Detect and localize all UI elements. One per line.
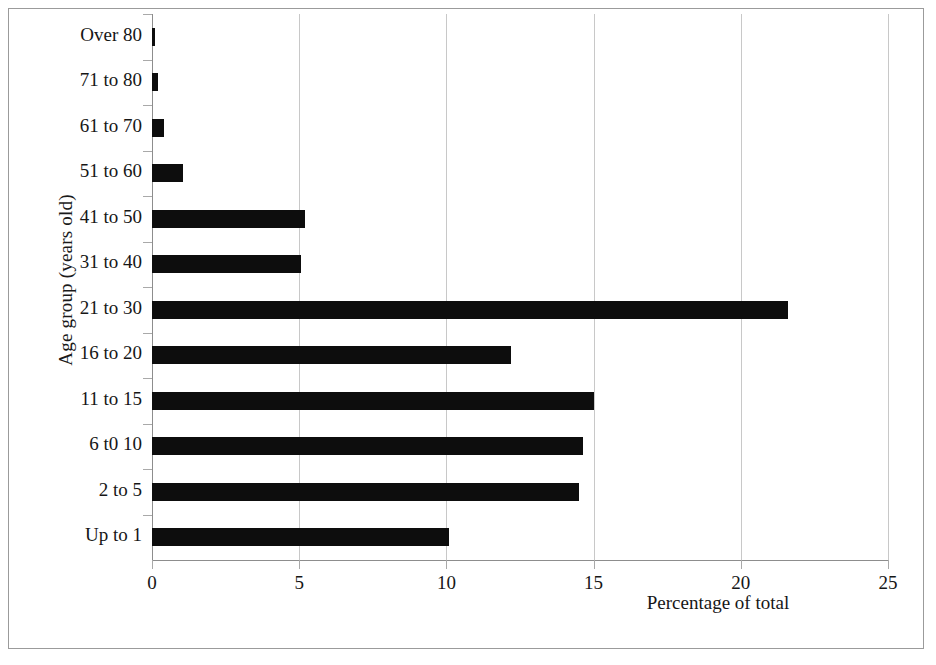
bar (152, 528, 449, 546)
y-axis-tick (143, 287, 152, 288)
y-axis-tick (143, 105, 152, 106)
bar (152, 437, 583, 455)
y-axis-tick-label: 11 to 15 (2, 388, 142, 410)
y-axis-tick-label: 2 to 5 (2, 479, 142, 501)
y-axis-tick (143, 196, 152, 197)
y-axis-tick (143, 242, 152, 243)
y-axis-tick-label: Over 80 (2, 24, 142, 46)
x-axis-tick (446, 560, 447, 569)
y-axis-tick (143, 14, 152, 15)
bar (152, 346, 511, 364)
y-axis-tick (143, 151, 152, 152)
y-axis-tick (143, 515, 152, 516)
x-axis-tick-label: 10 (416, 572, 476, 594)
bar (152, 119, 164, 137)
x-gridline (594, 14, 595, 560)
x-axis-tick (888, 560, 889, 569)
x-axis-tick-label: 5 (269, 572, 329, 594)
bar (152, 392, 594, 410)
bar (152, 28, 155, 46)
bar (152, 210, 305, 228)
x-axis-tick (152, 560, 153, 569)
x-gridline (299, 14, 300, 560)
y-axis-tick-label: 41 to 50 (2, 206, 142, 228)
bar (152, 255, 301, 273)
bar (152, 483, 579, 501)
y-axis-tick (143, 60, 152, 61)
x-axis-title: Percentage of total (548, 592, 888, 614)
y-axis-tick-label: 21 to 30 (2, 297, 142, 319)
x-gridline (888, 14, 889, 560)
y-axis-tick-label: Up to 1 (2, 524, 142, 546)
x-axis-tick-label: 25 (858, 572, 918, 594)
x-axis-tick-label: 15 (564, 572, 624, 594)
bar (152, 73, 158, 91)
y-axis-tick (143, 469, 152, 470)
y-axis-tick (143, 378, 152, 379)
plot-area (152, 14, 888, 560)
x-axis-tick-label: 0 (122, 572, 182, 594)
y-axis-tick-label: 16 to 20 (2, 342, 142, 364)
y-axis-tick-label: 51 to 60 (2, 160, 142, 182)
chart-figure: Age group (years old) Up to 12 to 56 t0 … (0, 0, 936, 665)
x-axis-tick (299, 560, 300, 569)
y-axis-tick-label: 71 to 80 (2, 69, 142, 91)
x-gridline (741, 14, 742, 560)
y-axis-tick-label: 6 t0 10 (2, 433, 142, 455)
x-axis-tick (741, 560, 742, 569)
y-axis-tick-label: 61 to 70 (2, 115, 142, 137)
x-gridline (446, 14, 447, 560)
y-axis-category-labels: Up to 12 to 56 t0 1011 to 1516 to 2021 t… (0, 14, 142, 560)
y-axis-tick (143, 333, 152, 334)
y-axis-tick-label: 31 to 40 (2, 251, 142, 273)
x-axis-tick (594, 560, 595, 569)
x-axis-tick-label: 20 (711, 572, 771, 594)
x-axis-line (152, 560, 888, 561)
bar (152, 301, 788, 319)
y-axis-tick (143, 424, 152, 425)
bar (152, 164, 183, 182)
